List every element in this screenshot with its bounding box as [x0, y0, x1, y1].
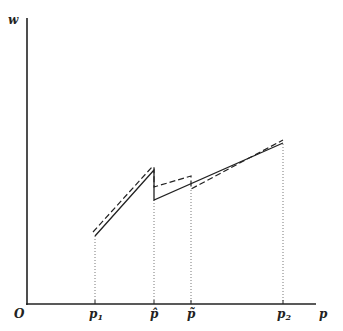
solid-wage-schedule	[95, 143, 283, 236]
dashed-wage-schedule	[93, 140, 283, 232]
tick-label-p2: p2	[277, 307, 291, 322]
tick-label-p-tilde: p̃	[187, 307, 196, 321]
wage-price-diagram: w O p p1 p̂ p̃ p2	[0, 0, 343, 331]
origin-label: O	[14, 307, 25, 321]
y-axis-label: w	[8, 13, 19, 27]
tick-label-p1: p1	[89, 307, 103, 322]
x-axis-label: p	[319, 307, 328, 321]
tick-label-p-hat: p̂	[150, 307, 159, 321]
